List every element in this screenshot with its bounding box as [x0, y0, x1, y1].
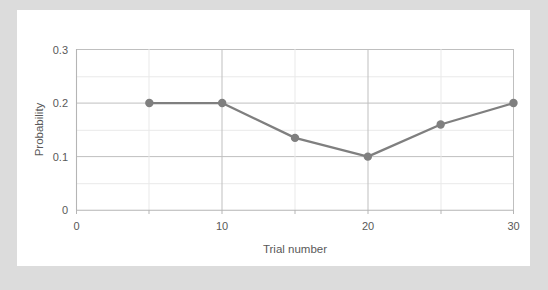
screenshot-root: 0.3 0.2 0.1 0 0 10 20 30 Trial number Pr…: [0, 0, 548, 290]
x-axis-tick-labels: 0 10 20 30: [73, 220, 519, 232]
y-tick-label: 0.2: [53, 97, 68, 109]
data-point[interactable]: [145, 99, 153, 107]
data-point[interactable]: [364, 152, 372, 160]
y-axis-tick-labels: 0.3 0.2 0.1 0: [53, 44, 68, 217]
x-tick-label: 30: [507, 220, 519, 232]
y-tick-label: 0.1: [53, 151, 68, 163]
y-axis-title: Probability: [33, 102, 45, 156]
y-tick-label: 0: [62, 204, 68, 216]
data-point[interactable]: [509, 99, 517, 107]
x-axis-title: Trial number: [263, 243, 327, 255]
data-point[interactable]: [291, 134, 299, 142]
line-chart[interactable]: 0.3 0.2 0.1 0 0 10 20 30 Trial number Pr…: [17, 10, 530, 266]
data-point[interactable]: [436, 120, 444, 128]
x-tick-label: 20: [362, 220, 374, 232]
data-point[interactable]: [218, 99, 226, 107]
x-tick-label: 10: [216, 220, 228, 232]
x-tick-label: 0: [73, 220, 79, 232]
chart-card: 0.3 0.2 0.1 0 0 10 20 30 Trial number Pr…: [17, 10, 530, 266]
y-tick-label: 0.3: [53, 44, 68, 56]
